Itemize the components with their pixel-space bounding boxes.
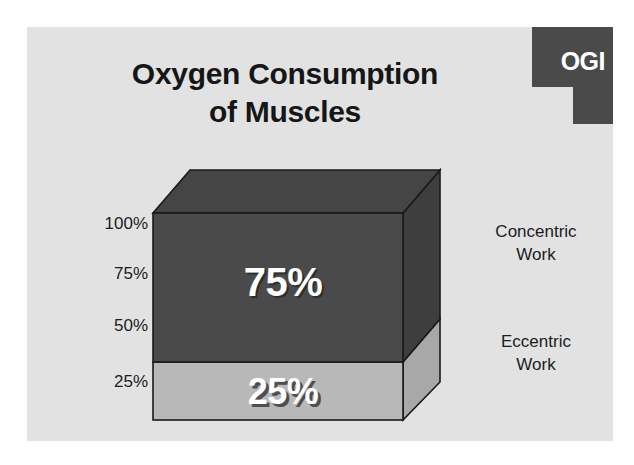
legend-eccentric-line-1: Eccentric — [470, 331, 602, 354]
bar-value-label-concentric: 75% — [168, 262, 398, 302]
slide: OGI Oxygen Consumption of Muscles 100% 7… — [0, 0, 634, 465]
bar-top-cap — [153, 170, 440, 213]
legend-item-eccentric-work: Eccentric Work — [470, 331, 602, 377]
axis-tick-50: 50% — [86, 317, 148, 334]
axis-tick-100: 100% — [86, 215, 148, 232]
axis-tick-25: 25% — [86, 373, 148, 390]
bar-value-label-eccentric: 25% — [168, 374, 398, 410]
legend-eccentric-line-2: Work — [470, 354, 602, 377]
axis-tick-75: 75% — [86, 265, 148, 282]
legend-concentric-line-2: Work — [470, 244, 602, 267]
legend-concentric-line-1: Concentric — [470, 221, 602, 244]
legend-item-concentric-work: Concentric Work — [470, 221, 602, 267]
